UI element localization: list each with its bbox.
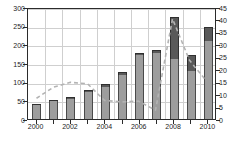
x-axis-tick-mark xyxy=(156,120,157,124)
x-axis-tick-label: 2000 xyxy=(28,123,44,130)
x-axis-tick-mark xyxy=(190,120,191,124)
bar-segment-lower xyxy=(84,92,93,119)
y-axis-right-tick-mark xyxy=(216,45,220,46)
y-axis-left-tick-mark xyxy=(23,45,27,46)
y-axis-right-tick-label: 45 xyxy=(219,5,227,12)
bar-2004 xyxy=(101,84,110,119)
y-axis-left-tick-mark xyxy=(23,64,27,65)
bar-segment-lower xyxy=(204,41,213,119)
y-axis-right-tick-mark xyxy=(216,83,220,84)
x-axis-labels: 200020022004200620082010 xyxy=(0,123,244,137)
bar-segment-lower xyxy=(170,59,179,119)
x-axis-tick-mark xyxy=(207,120,208,124)
x-axis-tick-mark xyxy=(36,120,37,124)
y-axis-right-tick-label: 30 xyxy=(219,42,227,49)
y-axis-right-tick-mark xyxy=(216,20,220,21)
y-axis-right-tick-label: 25 xyxy=(219,54,227,61)
bar-segment-lower xyxy=(135,55,144,119)
y-axis-right-tick-label: 10 xyxy=(219,92,227,99)
x-axis-tick-mark xyxy=(53,120,54,124)
y-axis-left-tick-mark xyxy=(23,83,27,84)
x-axis-tick-label: 2002 xyxy=(62,123,78,130)
bar-segment-lower xyxy=(152,53,161,119)
y-axis-right-tick-label: 40 xyxy=(219,17,227,24)
y-axis-right-tick-mark xyxy=(216,8,220,9)
y-axis-right-tick-mark xyxy=(216,58,220,59)
bar-segment-lower xyxy=(66,99,75,119)
bar-2002 xyxy=(66,97,75,119)
x-axis-tick-mark xyxy=(139,120,140,124)
x-axis-tick-mark xyxy=(173,120,174,124)
chart-figure: 050100150200250300 051015202530354045 20… xyxy=(0,0,244,141)
bar-2003 xyxy=(84,90,93,119)
y-axis-left-tick-mark xyxy=(23,120,27,121)
x-axis-tick-label: 2004 xyxy=(97,123,113,130)
y-axis-right-tick-label: 15 xyxy=(219,79,227,86)
bar-segment-lower xyxy=(49,101,58,119)
y-axis-right-tick-mark xyxy=(216,70,220,71)
y-axis-right-tick-label: 35 xyxy=(219,29,227,36)
bar-2000 xyxy=(32,104,41,119)
bar-segment-lower xyxy=(32,105,41,119)
x-axis-tick-label: 2010 xyxy=(200,123,216,130)
bar-segment-lower xyxy=(118,75,127,119)
y-axis-right-tick-mark xyxy=(216,108,220,109)
x-axis-tick-label: 2008 xyxy=(165,123,181,130)
x-axis-tick-mark xyxy=(70,120,71,124)
x-axis-tick-mark xyxy=(87,120,88,124)
bar-segment-upper xyxy=(187,55,196,71)
y-axis-left-tick-mark xyxy=(23,101,27,102)
bar-group xyxy=(28,9,215,119)
plot-area xyxy=(27,8,216,120)
bar-2008 xyxy=(170,17,179,119)
bar-2005 xyxy=(118,72,127,119)
bar-segment-upper xyxy=(204,27,213,41)
y-axis-left-tick-mark xyxy=(23,8,27,9)
bar-2010 xyxy=(204,27,213,119)
x-axis-tick-mark xyxy=(122,120,123,124)
bar-segment-upper xyxy=(170,17,179,58)
x-axis-tick-label: 2006 xyxy=(131,123,147,130)
y-axis-right-tick-mark xyxy=(216,33,220,34)
bar-2001 xyxy=(49,100,58,119)
bar-2006 xyxy=(135,53,144,119)
bar-segment-lower xyxy=(101,87,110,119)
bar-2009 xyxy=(187,55,196,119)
x-axis-tick-mark xyxy=(104,120,105,124)
bar-segment-lower xyxy=(187,71,196,119)
y-axis-right-tick-mark xyxy=(216,95,220,96)
bar-2007 xyxy=(152,50,161,119)
y-axis-left-tick-mark xyxy=(23,27,27,28)
y-axis-right-tick-label: 20 xyxy=(219,67,227,74)
y-axis-right-tick-mark xyxy=(216,120,220,121)
